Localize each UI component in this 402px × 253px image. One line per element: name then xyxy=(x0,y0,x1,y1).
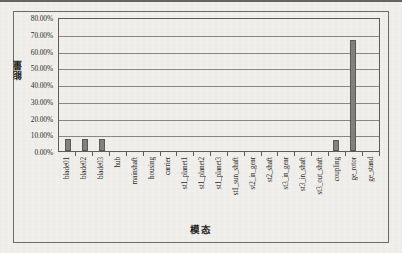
bar-slot xyxy=(261,19,278,151)
x-axis-tick-label: housing xyxy=(148,157,156,179)
bar-slot xyxy=(294,19,311,151)
bar-slot xyxy=(160,19,177,151)
x-axis-tick-label: st2_in_gear xyxy=(249,157,257,189)
y-axis-tick-label: 20.00% xyxy=(31,114,53,123)
y-axis-tick-labels: 80.00%70.00%60.00%50.00%40.00%30.00%20.0… xyxy=(0,18,56,152)
bar-slot xyxy=(361,19,378,151)
x-label-slot: st3_in_gear xyxy=(278,157,295,219)
x-axis-tick-label: st3_out_shaft xyxy=(316,157,324,194)
x-axis-tick-labels: blade01blade02blade03hubmainshafthousing… xyxy=(58,157,380,219)
x-axis-tick-label: mainshaft xyxy=(131,157,139,184)
x-axis-tick xyxy=(93,152,110,156)
x-axis-tick-label: ge_rotor xyxy=(350,157,358,181)
x-label-slot: carrier xyxy=(160,157,177,219)
bar-slot xyxy=(194,19,211,151)
x-axis-tick xyxy=(278,152,295,156)
bar[interactable] xyxy=(82,139,88,151)
x-axis-tick xyxy=(59,152,76,156)
x-label-slot: st2_shaft xyxy=(261,157,278,219)
bar-slot xyxy=(60,19,77,151)
x-axis-title: 模态 xyxy=(0,222,402,236)
x-label-slot: st1_planet1 xyxy=(177,157,194,219)
x-axis-tick xyxy=(329,152,346,156)
x-axis-ticks xyxy=(58,152,380,156)
x-axis-tick xyxy=(362,152,379,156)
x-axis-tick xyxy=(211,152,228,156)
x-axis-tick xyxy=(143,152,160,156)
x-label-slot: st1_planet2 xyxy=(194,157,211,219)
bar-slot xyxy=(211,19,228,151)
x-label-slot: blade02 xyxy=(76,157,93,219)
bar-slot xyxy=(278,19,295,151)
x-axis-tick-label: st2_shaft xyxy=(266,157,274,182)
x-label-slot: coupling xyxy=(329,157,346,219)
x-axis-tick-label: hub xyxy=(114,157,122,167)
x-axis-tick xyxy=(312,152,329,156)
plot-area xyxy=(58,18,380,152)
x-axis-tick xyxy=(126,152,143,156)
bar-slot xyxy=(244,19,261,151)
x-label-slot: ge_rotor xyxy=(345,157,362,219)
y-axis-tick-label: 0.00% xyxy=(34,148,53,157)
x-axis-tick xyxy=(194,152,211,156)
x-axis-tick xyxy=(227,152,244,156)
bar-slot xyxy=(144,19,161,151)
y-axis-tick-label: 80.00% xyxy=(31,14,53,23)
bar-slot xyxy=(127,19,144,151)
x-axis-tick-label: st1_planet1 xyxy=(181,157,189,189)
page-top-rule xyxy=(0,0,402,2)
bar-slot xyxy=(110,19,127,151)
bar-slot xyxy=(311,19,328,151)
bar[interactable] xyxy=(65,139,71,151)
x-label-slot: st1_planet3 xyxy=(211,157,228,219)
bar-slot xyxy=(328,19,345,151)
x-axis-tick xyxy=(261,152,278,156)
x-axis-tick-label: st1_sun_shaft xyxy=(232,157,240,195)
x-axis-tick-label: blade03 xyxy=(97,157,105,179)
bar-slot xyxy=(227,19,244,151)
x-axis-tick-label: st1_planet2 xyxy=(198,157,206,189)
x-axis-tick-label: ge_stand xyxy=(367,157,375,182)
y-axis-tick-label: 70.00% xyxy=(31,30,53,39)
x-axis-tick xyxy=(177,152,194,156)
x-label-slot: st2_in_gear xyxy=(244,157,261,219)
x-label-slot: mainshaft xyxy=(126,157,143,219)
x-axis-tick xyxy=(76,152,93,156)
x-axis-tick xyxy=(295,152,312,156)
x-axis-tick xyxy=(244,152,261,156)
x-label-slot: housing xyxy=(143,157,160,219)
x-axis-tick-label: st3_in_gear xyxy=(282,157,290,189)
y-axis-tick-label: 60.00% xyxy=(31,47,53,56)
y-axis-tick-label: 50.00% xyxy=(31,64,53,73)
bar-slot xyxy=(93,19,110,151)
bar-slot xyxy=(177,19,194,151)
x-label-slot: st3_out_shaft xyxy=(312,157,329,219)
x-axis-tick xyxy=(345,152,362,156)
x-axis-tick xyxy=(110,152,127,156)
x-label-slot: st1_sun_shaft xyxy=(227,157,244,219)
x-axis-tick-label: st3_in_shaft xyxy=(299,157,307,191)
x-axis-tick-label: blade01 xyxy=(63,157,71,179)
bar[interactable] xyxy=(350,40,356,151)
y-axis-tick-label: 30.00% xyxy=(31,97,53,106)
bar-slot xyxy=(77,19,94,151)
x-axis-tick xyxy=(160,152,177,156)
x-axis-tick-label: coupling xyxy=(333,157,341,181)
x-label-slot: ge_stand xyxy=(362,157,379,219)
bar[interactable] xyxy=(99,139,105,151)
bar[interactable] xyxy=(333,140,339,151)
x-label-slot: blade01 xyxy=(59,157,76,219)
y-axis-tick-label: 40.00% xyxy=(31,81,53,90)
x-axis-tick-label: st1_planet3 xyxy=(215,157,223,189)
x-axis-tick-label: carrier xyxy=(164,157,172,175)
y-axis-tick-label: 10.00% xyxy=(31,131,53,140)
x-label-slot: hub xyxy=(110,157,127,219)
bar-slot xyxy=(344,19,361,151)
bar-series xyxy=(59,19,379,151)
x-axis-tick-label: blade02 xyxy=(80,157,88,179)
x-label-slot: st3_in_shaft xyxy=(295,157,312,219)
x-label-slot: blade03 xyxy=(93,157,110,219)
